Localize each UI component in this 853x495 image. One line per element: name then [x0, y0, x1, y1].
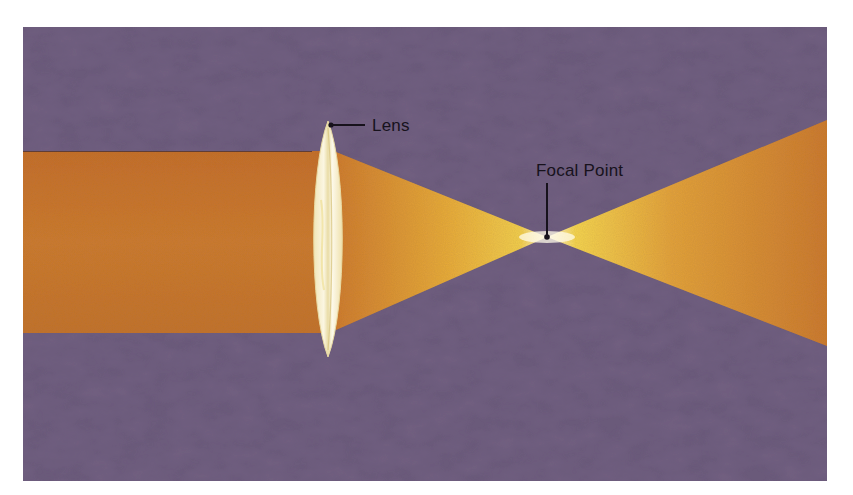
lens-diagram: [0, 0, 853, 495]
lens-label: Lens: [372, 116, 410, 136]
focal-point-label: Focal Point: [536, 161, 623, 181]
incoming-light-beam: [23, 151, 331, 333]
